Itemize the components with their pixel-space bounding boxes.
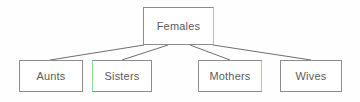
edge-females-mothers	[190, 45, 230, 60]
node-mothers: Mothers	[198, 60, 262, 92]
node-label-aunts: Aunts	[36, 71, 65, 82]
node-label-mothers: Mothers	[209, 71, 250, 82]
node-label-wives: Wives	[296, 71, 327, 82]
node-aunts: Aunts	[19, 60, 83, 92]
node-females: Females	[143, 7, 214, 45]
tree-diagram: Females Aunts Sisters Mothers Wives	[0, 0, 360, 102]
node-sisters: Sisters	[92, 60, 152, 92]
node-label-females: Females	[157, 21, 201, 32]
edge-females-wives	[213, 45, 311, 60]
node-label-sisters: Sisters	[104, 71, 139, 82]
node-wives: Wives	[280, 60, 342, 92]
